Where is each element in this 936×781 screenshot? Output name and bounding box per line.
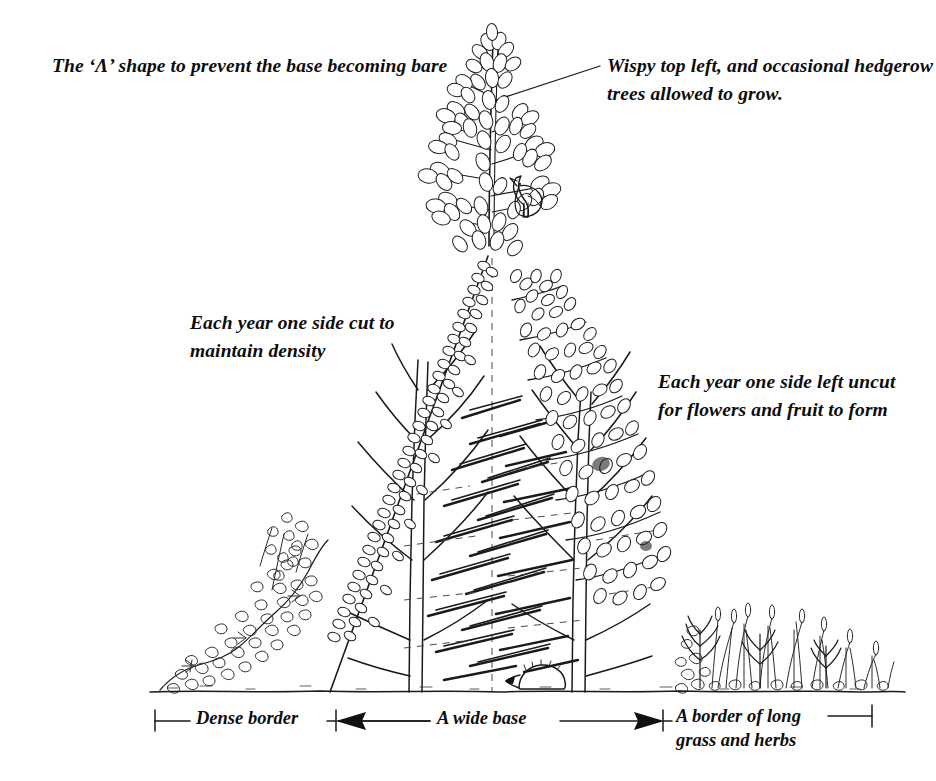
annotation-side-cut: Each year one side cut to maintain densi… xyxy=(190,309,395,364)
annotation-wispy-top: Wispy top left, and occasional hedgerow … xyxy=(607,52,933,107)
undergrowth-texture xyxy=(675,626,888,693)
herb-plants xyxy=(682,616,841,688)
dimension-label-wide-base: A wide base xyxy=(437,706,526,730)
grass-herb-border xyxy=(675,603,894,693)
dense-border-shrubs xyxy=(160,513,328,693)
grass-blades xyxy=(712,616,894,688)
dimension-label-grass-border: A border of long grass and herbs xyxy=(676,704,801,752)
annotation-side-uncut: Each year one side left uncut for flower… xyxy=(658,368,895,423)
hedge-internal-dashes xyxy=(404,460,660,648)
hedge-right-uncut-foliage xyxy=(508,267,673,607)
dimension-label-dense-border: Dense border xyxy=(196,706,298,730)
annotation-lambda-shape: The ‘Λ’ shape to prevent the base becomi… xyxy=(52,52,447,80)
dense-border-rosettes xyxy=(182,590,300,672)
